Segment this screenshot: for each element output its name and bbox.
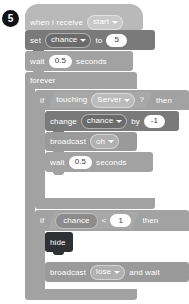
chance-variable-reporter[interactable]: chance (55, 213, 97, 229)
chevron-down-icon (80, 39, 86, 42)
change-variable-label: change (50, 117, 77, 126)
step-number-badge: 5 (2, 10, 19, 27)
change-variable-dropdown[interactable]: chance (81, 114, 127, 129)
block-forever[interactable]: forever (25, 72, 137, 89)
broadcast-oh-dropdown[interactable]: oh (90, 134, 119, 149)
touching-target-value: Server (97, 96, 121, 104)
set-variable-dropdown-value: chance (51, 36, 77, 44)
wait-1-duration-input[interactable]: 0.5 (49, 55, 72, 68)
if-chance-left-spine (35, 231, 45, 289)
block-set-variable[interactable]: set chance to 5 (25, 30, 155, 50)
change-variable-dropdown-value: chance (87, 117, 113, 125)
when-i-receive-dropdown-value: start (93, 18, 109, 26)
when-i-receive-label: when I receive (30, 18, 83, 27)
touching-label: touching (56, 96, 87, 104)
if-chance-compare-input[interactable]: 1 (110, 214, 131, 227)
forever-bottom-bar (25, 289, 137, 300)
if-chance-condition-slot[interactable]: chance < 1 (48, 212, 138, 229)
chevron-down-icon (124, 99, 130, 102)
block-wait-2[interactable]: wait 0.5 seconds (45, 152, 153, 172)
if-touching-condition-slot[interactable]: touching Server ? (48, 92, 152, 108)
if-touching-left-spine (35, 110, 45, 198)
block-change-variable[interactable]: change chance by -1 (45, 111, 179, 131)
if-touching-label: if (40, 96, 44, 105)
if-chance-label: if (40, 216, 44, 225)
block-notch (53, 252, 64, 255)
block-broadcast-lose-and-wait[interactable]: broadcast lose and wait (45, 262, 189, 282)
broadcast-lose-dropdown[interactable]: lose (90, 265, 125, 280)
chevron-down-icon (116, 120, 122, 123)
wait-1-label: wait (30, 57, 45, 66)
scratch-script-canvas: when I receive start set chance to 5 wai… (25, 0, 189, 304)
if-touching-bottom-bar (35, 198, 155, 209)
chevron-down-icon (112, 21, 118, 24)
block-broadcast-oh[interactable]: broadcast oh (45, 132, 137, 151)
hide-label: hide (50, 238, 66, 247)
when-i-receive-dropdown[interactable]: start (87, 15, 123, 30)
wait-2-label: wait (50, 158, 65, 167)
forever-left-spine (25, 89, 35, 289)
block-if-chance-less-than[interactable]: if chance < 1 then (35, 210, 189, 231)
change-variable-value-input[interactable]: -1 (144, 115, 165, 128)
if-chance-then-label: then (142, 216, 158, 225)
wait-2-duration-input[interactable]: 0.5 (69, 156, 92, 169)
chevron-down-icon (114, 271, 120, 274)
block-notch (53, 172, 64, 175)
block-if-touching[interactable]: if touching Server ? then (35, 90, 189, 110)
set-variable-to-label: to (95, 36, 102, 45)
set-variable-dropdown[interactable]: chance (45, 33, 91, 48)
change-variable-by-label: by (131, 117, 140, 126)
wait-1-seconds-label: seconds (76, 57, 107, 66)
less-than-operator: < (102, 217, 107, 225)
block-when-i-receive[interactable]: when I receive start (25, 14, 143, 30)
touching-target-dropdown[interactable]: Server (91, 93, 135, 108)
broadcast-lose-dropdown-value: lose (96, 268, 111, 276)
broadcast-lose-label: broadcast (50, 268, 86, 277)
set-variable-value-input[interactable]: 5 (106, 34, 127, 47)
step-number-label: 5 (8, 14, 14, 24)
set-variable-label: set (30, 36, 41, 45)
chevron-down-icon (108, 140, 114, 143)
broadcast-oh-dropdown-value: oh (96, 138, 105, 146)
block-hide[interactable]: hide (45, 232, 73, 252)
if-touching-then-label: then (156, 96, 172, 105)
block-wait-1[interactable]: wait 0.5 seconds (25, 51, 133, 71)
wait-2-seconds-label: seconds (96, 158, 127, 167)
forever-label: forever (30, 76, 56, 85)
broadcast-oh-label: broadcast (50, 137, 86, 146)
touching-question-mark: ? (139, 96, 144, 104)
broadcast-lose-and-wait-suffix: and wait (129, 268, 160, 277)
